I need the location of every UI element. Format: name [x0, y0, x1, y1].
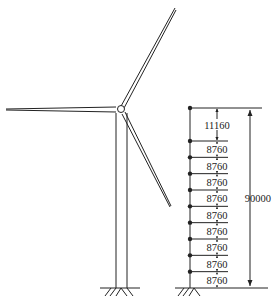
blade-upper — [120, 8, 176, 110]
segment-height-label: 8760 — [207, 210, 228, 221]
ground — [100, 288, 268, 296]
blade-left — [6, 107, 116, 112]
turbine-diagram: 1116087608760876087608760876087608760876… — [0, 0, 275, 305]
segment-height-label: 8760 — [207, 275, 228, 286]
segment-height-label: 8760 — [207, 193, 228, 204]
segment-height-label: 8760 — [207, 177, 228, 188]
rotor-hub — [118, 106, 125, 113]
segment-height-label: 8760 — [207, 161, 228, 172]
segment-height-label: 8760 — [207, 226, 228, 237]
segment-height-label: 8760 — [207, 242, 228, 253]
segment-height-label: 11160 — [204, 120, 229, 131]
blade-lower — [122, 112, 171, 207]
column-node — [188, 253, 192, 257]
column-node — [188, 204, 192, 208]
total-height-label: 90000 — [245, 193, 271, 204]
column-node — [188, 106, 192, 110]
segment-arrow-down — [215, 137, 218, 141]
column-node — [188, 220, 192, 224]
column-node — [188, 155, 192, 159]
column-node — [188, 237, 192, 241]
segment-height-label: 8760 — [207, 144, 228, 155]
column-node — [188, 139, 192, 143]
column-node — [188, 188, 192, 192]
turbine-tower — [116, 113, 127, 288]
segment-height-label: 8760 — [207, 259, 228, 270]
column-node — [188, 269, 192, 273]
segment-arrow-up — [215, 109, 218, 113]
column-node — [188, 171, 192, 175]
